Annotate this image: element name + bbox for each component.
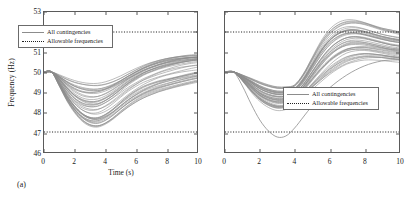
legend-swatch-solid-line-icon (287, 91, 309, 97)
legend-swatch-dotted-line-icon (22, 38, 44, 44)
y-axis-tick-mark (396, 93, 399, 94)
y-axis-tick-mark (396, 72, 399, 73)
panel-a: Frequency (Hz) 10864205352515049484746 A… (0, 0, 209, 201)
legend-swatch-dotted-line-icon (287, 100, 309, 106)
y-axis-tick-mark (194, 52, 197, 53)
x-axis-tick-mark (168, 149, 169, 152)
y-axis-tick-mark (44, 72, 47, 73)
x-axis-tick-label: 2 (257, 157, 261, 166)
x-axis-tick-mark (365, 149, 366, 152)
x-axis-tick-mark (106, 12, 107, 15)
y-axis-tick-label: 46 (30, 149, 41, 158)
x-axis-tick-label: 4 (293, 157, 297, 166)
legend-swatch-solid-line-icon (22, 29, 44, 35)
legend-label-all-contingencies: All contingencies (47, 28, 90, 36)
panel-b: 1086420 All contingencies Allowable freq… (209, 0, 418, 201)
y-axis-tick-mark (396, 12, 399, 13)
x-axis-tick-label: 0 (222, 157, 226, 166)
legend-entry-allowable-frequencies-b: Allowable frequencies (287, 99, 375, 107)
x-axis-tick-mark (225, 149, 226, 152)
x-axis-tick-mark (106, 149, 107, 152)
x-axis-tick-label: 8 (363, 157, 367, 166)
x-axis-tick-mark (330, 149, 331, 152)
y-axis-tick-mark (396, 52, 399, 53)
x-axis-tick-mark (260, 12, 261, 15)
panel-tag-a: (a) (17, 180, 26, 189)
x-axis-tick-mark (137, 12, 138, 15)
y-axis-tick-label: 48 (30, 108, 41, 117)
y-axis-tick-label: 49 (30, 88, 41, 97)
x-axis-tick-mark (137, 149, 138, 152)
x-axis-tick-label: 10 (396, 157, 404, 166)
x-axis-tick-label: 10 (194, 157, 202, 166)
y-axis-tick-mark (194, 32, 197, 33)
y-axis-tick-mark (225, 133, 228, 134)
x-axis-tick-mark (44, 149, 45, 152)
x-axis-tick-label: 0 (41, 157, 45, 166)
y-axis-tick-label: 47 (30, 128, 41, 137)
legend-label-all-contingencies: All contingencies (312, 90, 355, 98)
y-axis-tick-mark (225, 93, 228, 94)
y-axis-tick-mark (44, 93, 47, 94)
y-axis-tick-mark (194, 12, 197, 13)
x-axis-tick-label: 6 (134, 157, 138, 166)
y-axis-tick-mark (396, 133, 399, 134)
legend-entry-all-contingencies-a: All contingencies (22, 28, 109, 36)
y-axis-tick-mark (194, 93, 197, 94)
y-axis-tick-mark (225, 72, 228, 73)
plot-canvas-b (225, 12, 399, 152)
y-axis-tick-mark (194, 72, 197, 73)
legend-b: All contingencies Allowable frequencies (283, 87, 379, 110)
y-axis-tick-mark (44, 133, 47, 134)
legend-label-allowable-frequencies: Allowable frequencies (312, 99, 368, 107)
y-axis-tick-mark (225, 32, 228, 33)
figure-frequency-response: Frequency (Hz) 10864205352515049484746 A… (0, 0, 418, 201)
x-axis-tick-mark (260, 149, 261, 152)
x-axis-tick-mark (295, 12, 296, 15)
y-axis-tick-mark (396, 113, 399, 114)
y-axis-tick-mark (225, 113, 228, 114)
y-axis-tick-label: 53 (30, 7, 41, 16)
traces-b (225, 12, 399, 152)
x-axis-label-a: Time (s) (108, 168, 133, 177)
plot-area-b (224, 11, 400, 153)
x-axis-tick-mark (295, 149, 296, 152)
x-axis-tick-mark (75, 149, 76, 152)
x-axis-tick-mark (365, 12, 366, 15)
x-axis-tick-mark (75, 12, 76, 15)
x-axis-tick-mark (44, 12, 45, 15)
y-axis-tick-mark (44, 52, 47, 53)
legend-entry-all-contingencies-b: All contingencies (287, 90, 375, 98)
y-axis-tick-mark (194, 133, 197, 134)
y-axis-tick-mark (225, 52, 228, 53)
x-axis-tick-mark (225, 12, 226, 15)
x-axis-tick-label: 2 (72, 157, 76, 166)
x-axis-tick-mark (168, 12, 169, 15)
y-axis-tick-label: 50 (30, 67, 41, 76)
y-axis-tick-label: 51 (30, 47, 41, 56)
y-axis-tick-mark (44, 113, 47, 114)
legend-a: All contingencies Allowable frequencies (18, 25, 113, 48)
x-axis-tick-label: 6 (328, 157, 332, 166)
y-axis-label-a: Frequency (Hz) (4, 36, 18, 128)
y-axis-tick-mark (194, 113, 197, 114)
legend-entry-allowable-frequencies-a: Allowable frequencies (22, 37, 109, 45)
x-axis-tick-label: 8 (165, 157, 169, 166)
x-axis-tick-mark (330, 12, 331, 15)
x-axis-tick-label: 4 (103, 157, 107, 166)
legend-label-allowable-frequencies: Allowable frequencies (47, 37, 103, 45)
y-axis-tick-mark (396, 32, 399, 33)
